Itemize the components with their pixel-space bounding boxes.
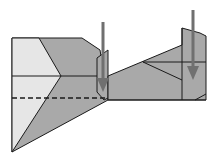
origami-diagram: [0, 0, 218, 156]
right-body: [108, 28, 206, 100]
